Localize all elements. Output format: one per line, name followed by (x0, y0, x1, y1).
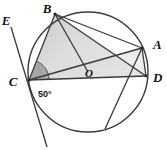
label-center-o: O (85, 67, 93, 79)
point-marker-d (145, 75, 148, 78)
geometry-canvas: B A D C E O 50° (0, 0, 167, 150)
point-marker-a (141, 47, 144, 50)
point-marker-b (53, 12, 56, 15)
label-point-b: B (42, 1, 52, 16)
label-point-e: E (1, 13, 11, 28)
geometry-figure: B A D C E O 50° (0, 0, 167, 150)
point-marker-c (27, 78, 30, 81)
label-angle-50: 50° (38, 89, 52, 99)
label-point-a: A (152, 37, 162, 52)
label-point-c: C (9, 74, 18, 89)
label-point-d: D (152, 70, 163, 85)
